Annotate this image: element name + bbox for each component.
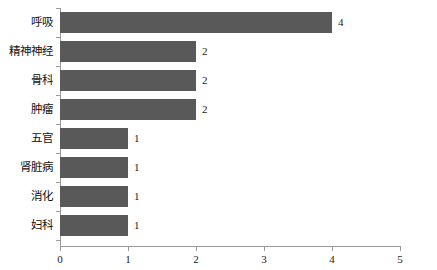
- category-label: 肾脏病: [20, 157, 53, 178]
- category-label: 妇科: [31, 215, 53, 236]
- bar-value-label: 1: [128, 157, 140, 178]
- category-label: 消化: [31, 186, 53, 207]
- y-axis-tick: [56, 95, 60, 96]
- bar: [60, 41, 196, 62]
- bar-value-label: 4: [332, 12, 344, 33]
- category-label: 五官: [31, 128, 53, 149]
- category-label: 精神神经: [9, 41, 53, 62]
- x-axis-tick: [128, 247, 129, 251]
- y-axis-tick: [56, 182, 60, 183]
- x-axis-tick-label: 3: [252, 253, 276, 265]
- bar-row: 骨科 2: [60, 66, 400, 95]
- y-axis-tick: [56, 211, 60, 212]
- x-axis-line: [60, 246, 401, 247]
- plot-area: 呼吸 4 精神神经 2 骨科 2 肿瘤 2 五官 1 肾脏病 1: [60, 8, 400, 246]
- bar-value-label: 2: [196, 99, 208, 120]
- bar-value-label: 1: [128, 128, 140, 149]
- bar: [60, 157, 128, 178]
- bar-row: 消化 1: [60, 182, 400, 211]
- category-label: 肿瘤: [31, 99, 53, 120]
- bar: [60, 186, 128, 207]
- x-axis-tick: [332, 247, 333, 251]
- y-axis-tick: [56, 8, 60, 9]
- bar-value-label: 2: [196, 41, 208, 62]
- bar: [60, 12, 332, 33]
- bar-row: 精神神经 2: [60, 37, 400, 66]
- x-axis-tick-label: 5: [388, 253, 412, 265]
- bar: [60, 128, 128, 149]
- x-axis-tick: [400, 247, 401, 251]
- bar-row: 妇科 1: [60, 211, 400, 240]
- bar: [60, 215, 128, 236]
- y-axis-tick: [56, 37, 60, 38]
- x-axis-tick-label: 4: [320, 253, 344, 265]
- bar-value-label: 1: [128, 186, 140, 207]
- x-axis-tick-label: 2: [184, 253, 208, 265]
- bar: [60, 99, 196, 120]
- y-axis-tick: [56, 124, 60, 125]
- bar-value-label: 1: [128, 215, 140, 236]
- y-axis-tick: [56, 66, 60, 67]
- bar: [60, 70, 196, 91]
- bar-row: 肾脏病 1: [60, 153, 400, 182]
- category-label: 骨科: [31, 70, 53, 91]
- bar-row: 呼吸 4: [60, 8, 400, 37]
- x-axis-tick: [60, 247, 61, 251]
- y-axis-tick: [56, 153, 60, 154]
- bar-row: 肿瘤 2: [60, 95, 400, 124]
- bar-chart: 呼吸 4 精神神经 2 骨科 2 肿瘤 2 五官 1 肾脏病 1: [0, 0, 437, 270]
- category-label: 呼吸: [31, 12, 53, 33]
- x-axis-tick: [264, 247, 265, 251]
- x-axis-tick-label: 0: [48, 253, 72, 265]
- bar-value-label: 2: [196, 70, 208, 91]
- x-axis-tick-label: 1: [116, 253, 140, 265]
- x-axis-tick: [196, 247, 197, 251]
- y-axis-tick: [56, 240, 60, 241]
- bar-row: 五官 1: [60, 124, 400, 153]
